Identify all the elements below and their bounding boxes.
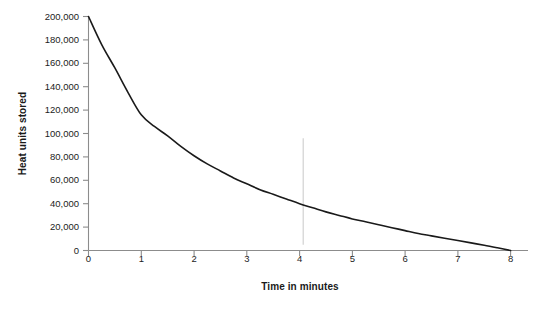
y-axis-ticks (83, 17, 89, 251)
x-tick-label: 2 (179, 254, 209, 264)
y-tick-label: 20,000 (21, 222, 79, 232)
y-tick-label: 140,000 (21, 82, 79, 92)
x-axis-tick-labels: 0 1 2 3 4 5 6 7 8 (0, 254, 542, 268)
y-tick-label: 200,000 (21, 12, 79, 22)
x-tick-label: 7 (443, 254, 473, 264)
x-tick-label: 6 (390, 254, 420, 264)
x-tick-label: 8 (496, 254, 526, 264)
bottom-caption (88, 299, 512, 309)
y-tick-label: 100,000 (21, 129, 79, 139)
x-axis-title: Time in minutes (88, 281, 512, 292)
decay-curve (89, 17, 511, 251)
y-tick-label: 40,000 (21, 199, 79, 209)
x-tick-label: 3 (232, 254, 262, 264)
y-axis-title: Heat units stored (17, 74, 28, 194)
x-tick-label: 0 (74, 254, 104, 264)
y-tick-label: 80,000 (21, 152, 79, 162)
x-tick-label: 4 (285, 254, 315, 264)
y-tick-label: 180,000 (21, 35, 79, 45)
x-tick-label: 1 (126, 254, 156, 264)
x-tick-label: 5 (337, 254, 367, 264)
y-tick-label: 60,000 (21, 175, 79, 185)
y-tick-label: 160,000 (21, 58, 79, 68)
chart-figure: 0 20,000 40,000 60,000 80,000 100,000 12… (0, 0, 542, 309)
y-tick-label: 120,000 (21, 105, 79, 115)
